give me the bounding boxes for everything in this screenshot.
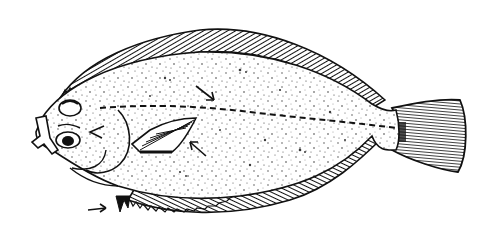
pelvic-fin bbox=[116, 196, 130, 212]
arrow-pelvic bbox=[88, 204, 106, 212]
fish-drawing bbox=[0, 0, 488, 235]
flatfish-illustration: Flatfish (flounder) line drawing bbox=[0, 0, 488, 235]
eye-upper bbox=[59, 100, 81, 116]
